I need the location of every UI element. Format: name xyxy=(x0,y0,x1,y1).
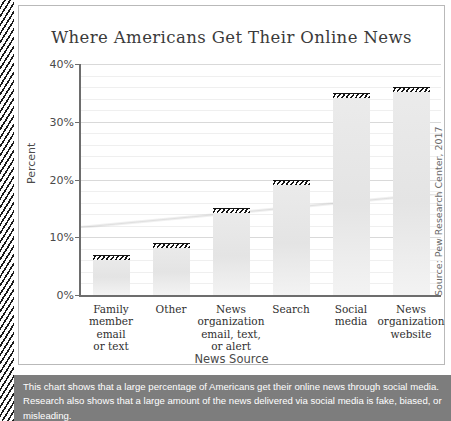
y-axis-label: Percent xyxy=(25,143,38,184)
bar[interactable] xyxy=(213,208,250,295)
bar[interactable] xyxy=(273,180,310,296)
bar-slot[interactable]: Other xyxy=(153,243,190,295)
bar[interactable] xyxy=(153,243,190,295)
plot-area: Familymemberemailor textOtherNewsorganiz… xyxy=(79,64,441,297)
bar-slot[interactable]: Newsorganizationemail, text,or alert xyxy=(213,208,250,295)
y-axis-tick-label: 0% xyxy=(57,289,74,302)
x-axis-tick-label-line: organization xyxy=(192,315,270,327)
bar-cap xyxy=(333,93,370,98)
caption-band: This chart shows that a large percentage… xyxy=(14,375,451,421)
y-axis-tick-mark xyxy=(75,64,81,65)
bar-slot[interactable]: Socialmedia xyxy=(333,93,370,295)
bar[interactable] xyxy=(93,255,130,295)
bar-slot[interactable]: Familymemberemailor text xyxy=(93,255,130,295)
bar[interactable] xyxy=(393,87,430,295)
y-axis-tick-mark xyxy=(75,180,81,181)
chart-frame: Where Americans Get Their Online News Pe… xyxy=(18,5,445,365)
y-axis-tick-mark xyxy=(75,295,81,296)
y-axis-tick-mark xyxy=(75,237,81,238)
bar-cap xyxy=(153,243,190,248)
caption-line-1: This chart shows that a large percentage… xyxy=(23,380,442,394)
caption-line-2: Research also shows that a large amount … xyxy=(23,394,442,408)
x-axis-tick-label: Newsorganizationwebsite xyxy=(372,303,450,340)
bar-cap xyxy=(273,180,310,185)
x-axis-tick-label-line: email xyxy=(72,328,150,340)
y-axis-tick-label: 20% xyxy=(50,173,74,186)
x-axis-label: News Source xyxy=(19,352,444,366)
bar-slot[interactable]: Newsorganizationwebsite xyxy=(393,87,430,295)
bar-cap xyxy=(393,87,430,92)
x-axis-tick-label-line: member xyxy=(72,315,150,327)
y-axis-tick-label: 40% xyxy=(50,58,74,71)
y-axis-tick-mark xyxy=(75,122,81,123)
y-axis-tick-label: 30% xyxy=(50,115,74,128)
source-note: Source: Pew Research Center, 2017 xyxy=(433,126,444,296)
bar-series: Familymemberemailor textOtherNewsorganiz… xyxy=(81,64,441,295)
x-axis-tick-label-line: organization xyxy=(372,315,450,327)
x-axis-tick-label-line: News xyxy=(372,303,450,315)
chart-title: Where Americans Get Their Online News xyxy=(19,28,444,47)
x-axis-tick-label-line: website xyxy=(372,328,450,340)
bar-cap xyxy=(213,208,250,213)
y-axis-tick-label: 10% xyxy=(50,231,74,244)
x-axis-tick-label-line: or text xyxy=(72,340,150,352)
x-axis-tick-label-line: or alert xyxy=(192,340,270,352)
bar-slot[interactable]: Search xyxy=(273,180,310,296)
caption-line-3: misleading. xyxy=(23,409,442,421)
decorative-hatch-border xyxy=(0,0,14,421)
x-axis-tick-label-line: email, text, xyxy=(192,328,270,340)
bar-cap xyxy=(93,255,130,260)
bar[interactable] xyxy=(333,93,370,295)
